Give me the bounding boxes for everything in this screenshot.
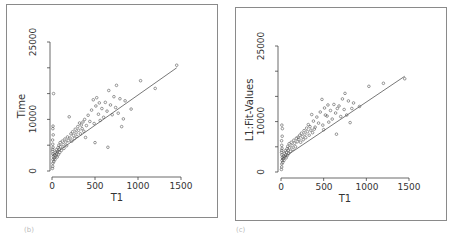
data-point: [82, 121, 85, 124]
data-point: [87, 114, 90, 117]
data-point: [90, 109, 93, 112]
data-point: [154, 87, 157, 90]
data-point: [106, 110, 109, 113]
data-point: [51, 143, 54, 146]
data-point: [344, 92, 347, 95]
data-point: [301, 135, 304, 138]
data-point: [311, 131, 314, 134]
x-tick-1000: 1000: [356, 182, 379, 192]
data-point: [287, 145, 290, 148]
y-tick-25000: 25000: [28, 27, 38, 56]
x-tick-1000: 1000: [127, 181, 150, 191]
data-point: [107, 146, 110, 149]
data-point: [64, 141, 67, 144]
y-axis-label: L1:Fit-Values: [244, 79, 255, 142]
data-point: [77, 125, 80, 128]
data-point: [175, 64, 178, 67]
y-tick-10000: 10000: [28, 104, 38, 133]
data-point: [310, 129, 313, 132]
data-point: [80, 124, 83, 127]
data-point: [281, 135, 284, 138]
data-point: [304, 133, 307, 136]
data-point: [349, 121, 352, 124]
right-plot-area: [275, 46, 409, 181]
data-point: [334, 112, 337, 115]
data-point: [304, 136, 307, 139]
data-point: [115, 84, 118, 87]
data-point: [93, 122, 96, 125]
x-tick-0: 0: [278, 182, 284, 192]
data-point: [120, 125, 123, 128]
data-point: [109, 104, 112, 107]
y-tick-25000: 25000: [256, 31, 266, 60]
data-point: [291, 144, 294, 147]
x-tick-500: 500: [315, 182, 332, 192]
data-point: [323, 107, 326, 110]
data-point: [280, 139, 283, 142]
x-tick-0: 0: [49, 181, 55, 191]
data-point: [122, 118, 125, 121]
data-point: [319, 111, 322, 114]
data-point: [368, 85, 371, 88]
data-point: [280, 168, 283, 171]
data-point: [331, 118, 334, 121]
y-axis-label: Time: [16, 94, 27, 119]
data-point: [130, 108, 133, 111]
right-scatter-plot: 25000 10000 0 L1:Fit-Values 0 500 1000 1…: [225, 0, 450, 236]
data-point: [67, 139, 70, 142]
data-point: [293, 139, 296, 142]
data-point: [107, 89, 110, 92]
data-point: [281, 154, 284, 157]
left-scatter-plot: 25000 10000 0 Time 0 500 1000 1500 T1: [0, 0, 225, 236]
data-point: [312, 120, 315, 123]
data-point: [294, 146, 297, 149]
data-point: [119, 97, 122, 100]
data-point: [72, 134, 75, 137]
data-point: [299, 141, 302, 144]
x-tick-1500: 1500: [398, 182, 421, 192]
data-point: [104, 101, 107, 104]
data-point: [300, 132, 303, 135]
data-point: [113, 95, 116, 98]
data-point: [98, 102, 101, 105]
data-point: [61, 140, 64, 143]
data-point: [280, 144, 283, 147]
data-point: [81, 127, 84, 130]
x-tick-500: 500: [86, 181, 103, 191]
data-point: [352, 102, 355, 105]
data-point: [97, 113, 100, 116]
data-point: [51, 139, 54, 142]
data-point: [52, 92, 55, 95]
data-point: [305, 127, 308, 130]
data-point: [321, 98, 324, 101]
data-point: [322, 124, 325, 127]
data-point: [309, 125, 312, 128]
data-point: [101, 107, 104, 110]
data-point: [403, 77, 406, 80]
data-point: [69, 137, 72, 140]
y-tick-10000: 10000: [256, 106, 266, 135]
y-tick-0: 0: [28, 168, 38, 174]
data-point: [95, 96, 98, 99]
data-point: [59, 145, 62, 148]
data-point: [336, 107, 339, 110]
data-point: [338, 105, 341, 108]
data-point: [382, 82, 385, 85]
data-point: [351, 107, 354, 110]
data-point: [281, 124, 284, 127]
data-point: [52, 125, 55, 128]
x-tick-1500: 1500: [170, 181, 193, 191]
data-point: [84, 136, 87, 139]
data-point: [124, 100, 127, 103]
data-point: [75, 132, 78, 135]
x-axis-label: T1: [338, 193, 351, 204]
data-point: [139, 79, 142, 82]
data-point: [306, 130, 309, 133]
data-point: [83, 118, 86, 121]
data-point: [85, 124, 88, 127]
data-point: [335, 133, 338, 136]
data-point: [293, 142, 296, 145]
data-point: [94, 141, 97, 144]
data-point: [303, 129, 306, 132]
data-point: [62, 143, 65, 146]
